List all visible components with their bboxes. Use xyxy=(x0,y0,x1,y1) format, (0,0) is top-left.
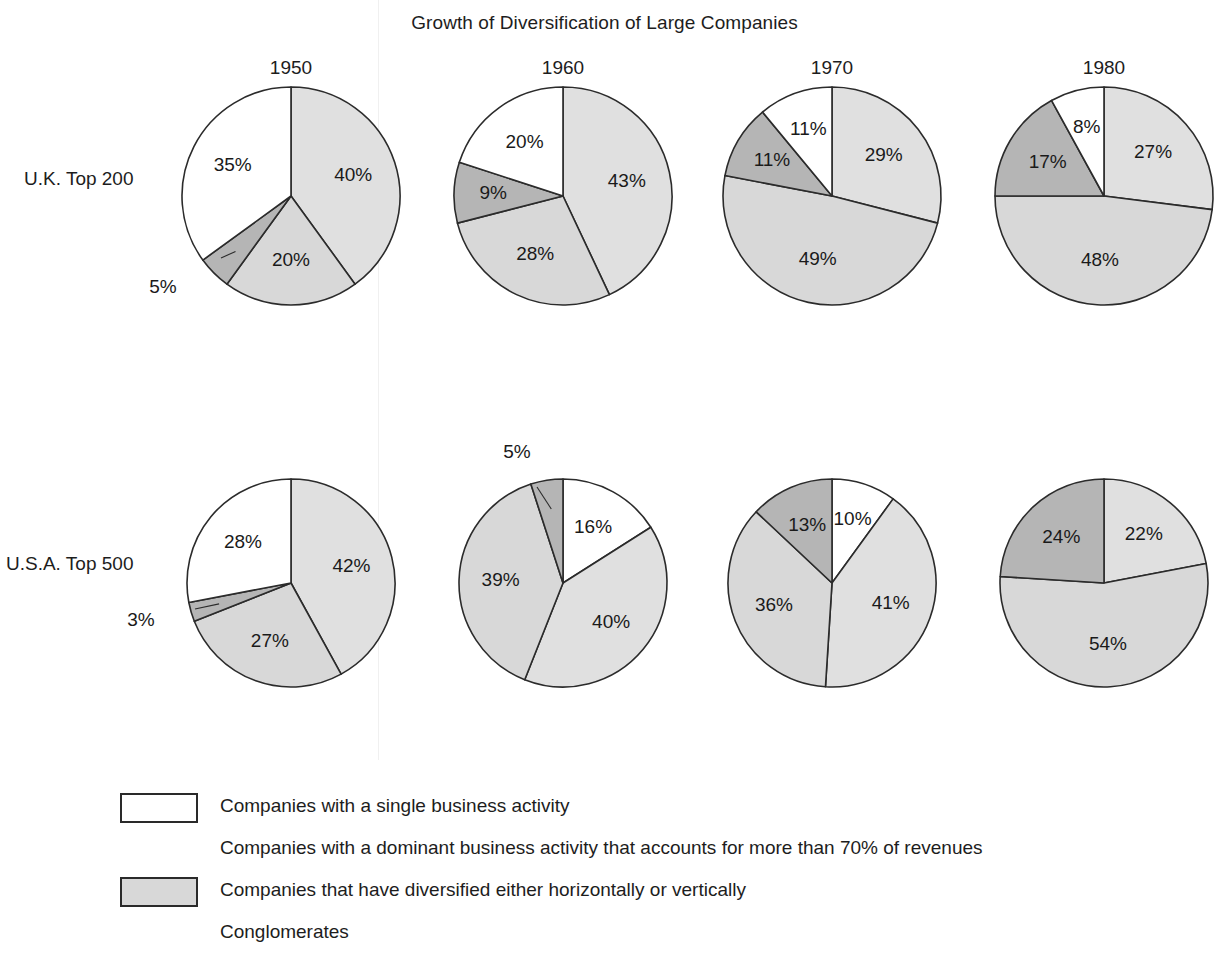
legend-label-dominant: Companies with a dominant business activ… xyxy=(220,837,983,859)
slice-label-diversified: 39% xyxy=(482,569,520,590)
slice-label-diversified: 36% xyxy=(755,594,793,615)
pie-chart-usa-1980: 22%54%24% xyxy=(850,329,1218,837)
legend-swatch-single xyxy=(120,793,198,823)
legend-item-single: Companies with a single business activit… xyxy=(120,790,1200,832)
slice-label-conglomerates: 3% xyxy=(127,609,155,630)
slice-label-diversified: 28% xyxy=(516,243,554,264)
slice-label-dominant: 22% xyxy=(1125,523,1163,544)
legend-item-conglomerates: Conglomerates xyxy=(120,916,1200,958)
legend-swatch-diversified xyxy=(120,877,198,907)
slice-label-single: 8% xyxy=(1073,116,1101,137)
slice-label-conglomerates: 17% xyxy=(1029,151,1067,172)
slice-label-dominant: 27% xyxy=(1134,141,1172,162)
slice-label-diversified: 48% xyxy=(1081,249,1119,270)
legend-label-single: Companies with a single business activit… xyxy=(220,795,570,817)
slice-label-diversified: 54% xyxy=(1089,633,1127,654)
legend-swatch-conglomerates xyxy=(120,919,198,949)
slice-label-conglomerates: 11% xyxy=(754,149,791,170)
slice-label-conglomerates: 5% xyxy=(149,276,177,297)
slice-label-conglomerates: 24% xyxy=(1042,526,1080,547)
slice-label-conglomerates: 9% xyxy=(480,182,508,203)
legend-item-dominant: Companies with a dominant business activ… xyxy=(120,832,1200,874)
slice-label-diversified: 27% xyxy=(251,630,289,651)
legend-item-diversified: Companies that have diversified either h… xyxy=(120,874,1200,916)
slice-label-conglomerates: 5% xyxy=(503,441,531,462)
slice-label-single: 28% xyxy=(224,531,262,552)
slice-label-single: 20% xyxy=(506,131,544,152)
slice-label-single: 35% xyxy=(214,154,252,175)
legend-swatch-dominant xyxy=(120,835,198,865)
legend: Companies with a single business activit… xyxy=(120,790,1200,958)
slice-label-single: 11% xyxy=(790,118,827,139)
slice-label-conglomerates: 13% xyxy=(788,514,826,535)
slice-label-diversified: 49% xyxy=(799,248,837,269)
legend-label-conglomerates: Conglomerates xyxy=(220,921,349,943)
legend-label-diversified: Companies that have diversified either h… xyxy=(220,879,746,901)
